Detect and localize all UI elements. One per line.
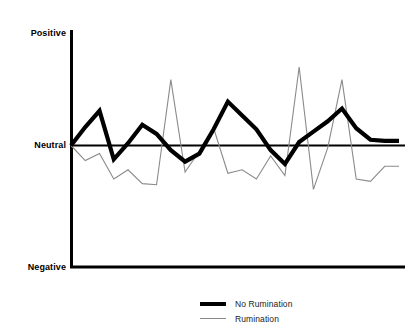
legend-swatch-no-rumination-icon bbox=[200, 298, 226, 310]
y-axis-label-neutral: Neutral bbox=[4, 140, 66, 150]
chart-plot-area bbox=[0, 0, 412, 335]
legend-label-no-rumination: No Rumination bbox=[235, 299, 293, 309]
series-line-rumination bbox=[71, 67, 399, 189]
y-axis-label-negative: Negative bbox=[4, 262, 66, 272]
chart-figure: Positive Neutral Negative No Rumination … bbox=[0, 0, 412, 335]
legend-label-rumination: Rumination bbox=[235, 314, 279, 324]
chart-legend: No Rumination Rumination bbox=[200, 296, 380, 326]
legend-swatch-rumination-icon bbox=[200, 313, 226, 325]
legend-item-rumination: Rumination bbox=[200, 311, 380, 326]
legend-item-no-rumination: No Rumination bbox=[200, 296, 380, 311]
y-axis-label-positive: Positive bbox=[4, 28, 66, 38]
